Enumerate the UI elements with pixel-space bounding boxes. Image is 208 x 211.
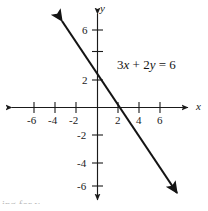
y-tick-label-neg4: -4 xyxy=(77,158,86,169)
equation-plus-sign: + xyxy=(129,57,143,72)
x-tick-label-6: 6 xyxy=(157,115,163,126)
x-tick-label-neg4: -4 xyxy=(48,115,57,126)
y-tick-label-neg2: -2 xyxy=(77,130,86,141)
y-tick-label-2: 2 xyxy=(82,75,88,86)
equation-constant: 6 xyxy=(169,57,176,72)
y-axis-label: y xyxy=(100,3,105,14)
x-axis-label: x xyxy=(196,101,201,112)
x-axis-group xyxy=(12,102,188,113)
y-tick-label-6: 6 xyxy=(82,25,88,36)
equation-equals-sign: = xyxy=(155,57,169,72)
coordinate-plane xyxy=(0,0,208,211)
y-tick-label-neg6: -6 xyxy=(77,181,86,192)
x-tick-label-neg2: -2 xyxy=(69,115,78,126)
equation-annotation: 3x + 2y = 6 xyxy=(117,58,176,71)
x-tick-label-neg6: -6 xyxy=(27,115,36,126)
graph-figure: x y -6 -4 -2 2 4 6 6 2 -2 -4 -6 3x + 2y … xyxy=(0,0,208,211)
x-tick-label-2: 2 xyxy=(115,115,121,126)
x-tick-label-4: 4 xyxy=(136,115,142,126)
